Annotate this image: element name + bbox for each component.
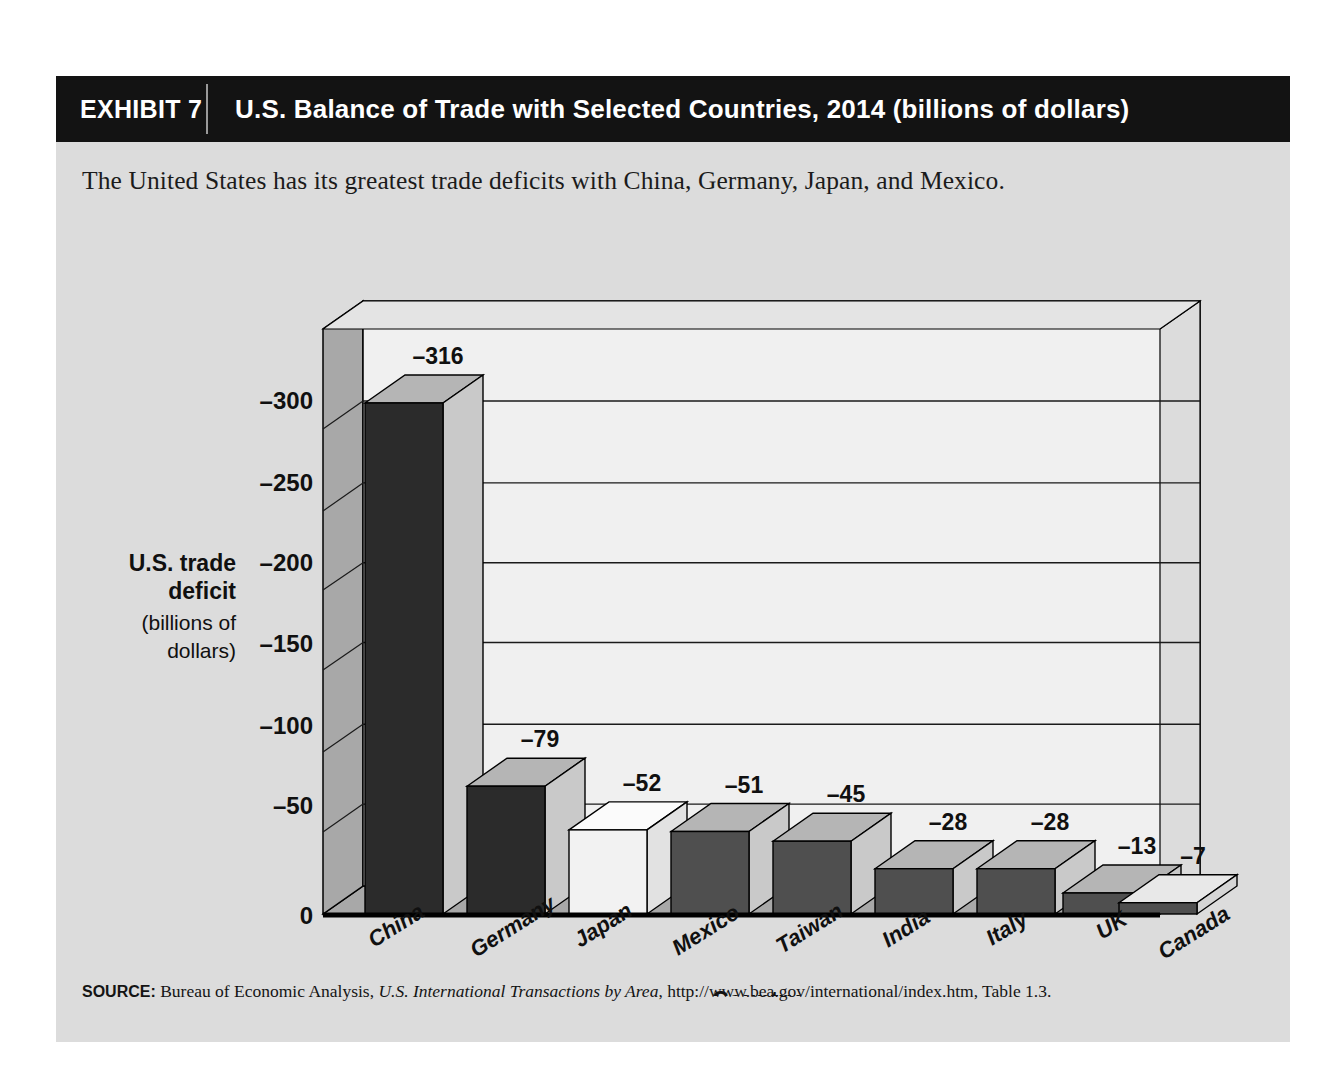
value-label-japan: –52 xyxy=(623,770,661,796)
source-label: SOURCE: xyxy=(82,983,156,1000)
value-label-italy: –28 xyxy=(1031,809,1070,835)
y-tick-neg100: –100 xyxy=(260,712,313,739)
value-label-india: –28 xyxy=(929,809,968,835)
y-axis-title-line1: U.S. trade xyxy=(129,550,236,576)
y-tick-neg300: –300 xyxy=(260,387,313,414)
bar-japan[interactable] xyxy=(569,802,687,914)
value-label-uk: –13 xyxy=(1118,833,1156,859)
bar-china[interactable] xyxy=(365,375,483,914)
exhibit-panel: EXHIBIT 7 U.S. Balance of Trade with Sel… xyxy=(56,76,1290,1042)
exhibit-title-bar: EXHIBIT 7 U.S. Balance of Trade with Sel… xyxy=(56,76,1290,142)
value-label-mexico: –51 xyxy=(725,772,764,798)
exhibit-title-text: U.S. Balance of Trade with Selected Coun… xyxy=(208,94,1129,125)
exhibit-number-label: EXHIBIT 7 xyxy=(56,95,206,124)
y-tick-neg50: –50 xyxy=(273,792,313,819)
plot-ceiling-edge xyxy=(323,301,1200,329)
value-label-china: –316 xyxy=(412,343,463,369)
y-axis-title-line3: (billions of xyxy=(141,611,236,634)
y-axis-title: U.S. trade deficit (billions of dollars) xyxy=(129,550,237,662)
plot-left-wall xyxy=(323,301,363,914)
source-text-before: Bureau of Economic Analysis, xyxy=(156,981,379,1001)
value-label-germany: –79 xyxy=(521,726,559,752)
y-axis-title-line4: dollars) xyxy=(167,639,236,662)
source-text-after: , http://www.bea.gov/international/index… xyxy=(658,981,1051,1001)
value-label-canada: –7 xyxy=(1180,843,1206,869)
y-tick-zero: 0 xyxy=(300,902,313,929)
source-title-italic: U.S. International Transactions by Area xyxy=(378,981,658,1001)
y-tick-neg250: –250 xyxy=(260,469,313,496)
chart-container: –300 –250 –200 –150 –100 –50 0 U.S. trad… xyxy=(56,196,1290,996)
plot-right-wall xyxy=(1160,301,1200,914)
y-axis-tick-labels: –300 –250 –200 –150 –100 –50 0 xyxy=(260,387,313,929)
y-axis-title-line2: deficit xyxy=(168,578,236,604)
source-line: SOURCE: Bureau of Economic Analysis, U.S… xyxy=(82,981,1272,1002)
y-tick-neg150: –150 xyxy=(260,630,313,657)
bar-chart-svg: –300 –250 –200 –150 –100 –50 0 U.S. trad… xyxy=(56,196,1290,996)
bar-mexico[interactable] xyxy=(671,804,789,915)
page-root: EXHIBIT 7 U.S. Balance of Trade with Sel… xyxy=(0,0,1336,1069)
y-tick-neg200: –200 xyxy=(260,549,313,576)
value-label-taiwan: –45 xyxy=(827,781,866,807)
bar-germany[interactable] xyxy=(467,758,585,914)
exhibit-caption: The United States has its greatest trade… xyxy=(82,166,1262,196)
